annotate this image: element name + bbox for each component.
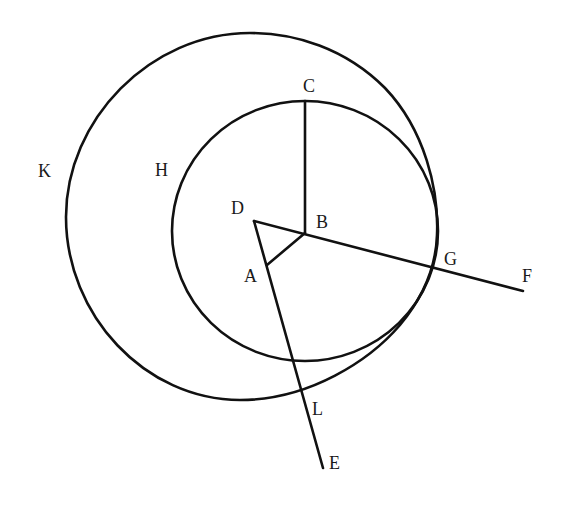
label-a: A bbox=[244, 266, 257, 286]
label-d: D bbox=[231, 198, 244, 218]
label-f: F bbox=[522, 266, 532, 286]
label-k: K bbox=[38, 161, 51, 181]
segment-de bbox=[254, 221, 323, 468]
label-h: H bbox=[155, 160, 168, 180]
label-l: L bbox=[312, 399, 323, 419]
segment-df bbox=[254, 221, 523, 291]
label-b: B bbox=[316, 212, 328, 232]
label-g: G bbox=[444, 249, 457, 269]
circle-k bbox=[66, 33, 437, 400]
segment-ab bbox=[267, 233, 305, 265]
geometry-diagram: C K H D B A G F L E bbox=[0, 0, 569, 509]
label-e: E bbox=[329, 453, 340, 473]
label-c: C bbox=[303, 76, 315, 96]
